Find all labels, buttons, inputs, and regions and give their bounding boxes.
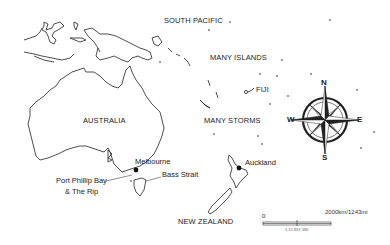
port-phillip-leader bbox=[106, 175, 132, 181]
new-zealand-south-island-outline bbox=[208, 188, 232, 214]
bass-strait-leader bbox=[146, 177, 161, 181]
scale-ratio: 1:15 833 386 bbox=[285, 228, 308, 232]
label-melbourne: Melbourne bbox=[135, 158, 170, 166]
label-many-storms: MANY STORMS bbox=[204, 117, 261, 125]
solomon-islands-outline bbox=[168, 48, 172, 52]
label-fiji: FIJI bbox=[256, 86, 269, 94]
compass-north: N bbox=[321, 79, 327, 87]
melbourne-marker bbox=[134, 168, 139, 173]
compass-west: W bbox=[287, 116, 295, 124]
new-guinea-outline bbox=[84, 28, 152, 62]
borneo-edge-outline bbox=[24, 28, 42, 40]
label-port-phillip-bay: Port Phillip Bay bbox=[56, 177, 107, 185]
label-australia: AUSTRALIA bbox=[83, 117, 126, 125]
scale-bar bbox=[263, 220, 331, 226]
tasmania-outline bbox=[134, 178, 146, 196]
label-auckland: Auckland bbox=[245, 159, 276, 167]
new-caledonia-outline bbox=[200, 100, 210, 108]
compass-rose-icon bbox=[291, 86, 359, 154]
scale-max-label: 2000km/1243mi bbox=[325, 209, 368, 215]
compass-south: S bbox=[322, 154, 327, 162]
label-south-pacific: SOUTH PACIFIC bbox=[164, 17, 223, 25]
compass-east: E bbox=[357, 116, 362, 124]
scale-zero: 0 bbox=[262, 213, 265, 219]
lesser-sunda-islands-outline bbox=[24, 52, 74, 60]
fiji-outline bbox=[248, 88, 254, 92]
label-bass-strait: Bass Strait bbox=[162, 171, 198, 179]
label-the-rip: & The Rip bbox=[65, 188, 98, 196]
label-new-zealand: NEW ZEALAND bbox=[178, 218, 233, 226]
moluccas-outline bbox=[74, 22, 78, 30]
auckland-marker bbox=[237, 166, 242, 171]
sulawesi-outline bbox=[42, 22, 64, 44]
label-many-islands: MANY ISLANDS bbox=[210, 54, 267, 62]
